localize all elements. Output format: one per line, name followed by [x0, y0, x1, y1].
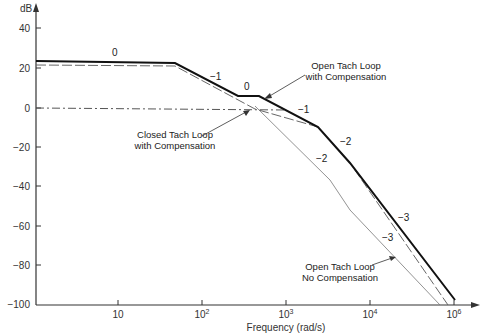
x-axis-title: Frequency (rad/s) [247, 322, 326, 333]
y-tick-label: 0 [24, 103, 30, 114]
y-axis-unit: dB [20, 3, 33, 14]
y-tick-label: 20 [19, 63, 31, 74]
series-open-nocomp [36, 65, 448, 305]
x-tick-label: 102 [194, 308, 209, 320]
annotation-open-comp: Open Tach Loop with Compensation [264, 60, 386, 99]
svg-text:with Compensation: with Compensation [134, 140, 216, 151]
slope-label: −2 [340, 136, 352, 147]
svg-text:Open Tach Loop: Open Tach Loop [311, 60, 381, 71]
y-tick-label: 40 [19, 23, 31, 34]
slope-label: −3 [398, 212, 410, 223]
slope-label: −2 [316, 153, 328, 164]
arrow-icon [264, 93, 272, 99]
slope-label: 0 [112, 47, 118, 58]
bode-plot: dB 40 20 0 −20 −40 −60 −80 −100 10 102 1… [0, 0, 481, 334]
svg-text:with Compensation: with Compensation [305, 71, 387, 82]
slope-label: −1 [210, 71, 222, 82]
slope-label: −3 [382, 232, 394, 243]
y-axis-arrow-icon [33, 3, 39, 12]
y-tick-label: −80 [13, 260, 30, 271]
annotation-closed-comp: Closed Tach Loop with Compensation [134, 110, 250, 151]
slope-label: −1 [298, 104, 310, 115]
x-axis: 10 102 103 104 106 Frequency (rad/s) [36, 300, 480, 333]
series-open-comp [36, 61, 455, 300]
svg-text:No Compensation: No Compensation [302, 272, 378, 283]
y-tick-label: −60 [13, 221, 30, 232]
x-tick-label: 106 [446, 308, 461, 320]
y-axis: dB 40 20 0 −20 −40 −60 −80 −100 [7, 3, 41, 310]
series-closed-comp [36, 108, 286, 110]
x-tick-label: 10 [112, 309, 124, 320]
x-tick-label: 104 [362, 308, 377, 320]
arrow-icon [389, 256, 396, 261]
annotation-open-nocomp: Open Tach Loop No Compensation [302, 256, 396, 283]
y-tick-label: −20 [13, 142, 30, 153]
x-axis-arrow-icon [471, 302, 480, 308]
y-tick-label: −100 [7, 299, 30, 310]
slope-label: 0 [244, 81, 250, 92]
y-tick-label: −40 [13, 181, 30, 192]
svg-text:Open Tach Loop: Open Tach Loop [305, 261, 375, 272]
x-tick-label: 103 [278, 308, 293, 320]
svg-text:Closed Tach Loop: Closed Tach Loop [137, 129, 213, 140]
